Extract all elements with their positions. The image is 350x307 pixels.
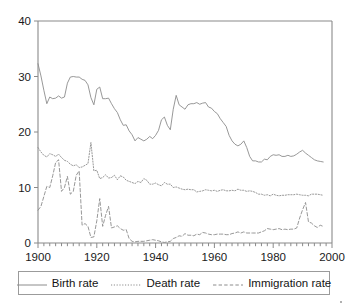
chart-screenshot: 010203040 190019201940196019802000 Birth…	[0, 0, 350, 307]
chart-tick-marks	[34, 21, 332, 248]
chart-axes	[38, 21, 332, 243]
legend-line-swatch-dotted	[111, 283, 141, 284]
x-axis-tick-label: 1960	[202, 251, 228, 262]
legend-item-death-rate[interactable]: Death rate	[111, 277, 200, 289]
chart-series-lines	[38, 64, 323, 243]
legend-item-label: Birth rate	[52, 277, 99, 289]
y-axis-tick-label: 0	[25, 237, 31, 249]
y-axis-tick-label: 20	[18, 126, 31, 138]
y-axis-tick-label: 30	[18, 71, 31, 83]
y-axis-tick-labels: 010203040	[18, 15, 31, 249]
legend-item-immigration-rate[interactable]: Immigration rate	[213, 277, 331, 289]
x-axis-tick-label: 1940	[143, 251, 169, 262]
legend-line-swatch-dashed	[213, 283, 243, 284]
series-line-birth-rate	[38, 64, 323, 162]
chart-plot-area: 010203040 190019201940196019802000	[0, 0, 350, 262]
series-line-death-rate	[38, 143, 323, 196]
x-axis-tick-label: 2000	[319, 251, 345, 262]
legend-line-swatch-solid	[17, 283, 47, 284]
chart-legend: Birth rateDeath rateImmigration rate	[18, 271, 330, 295]
x-axis-tick-label: 1980	[260, 251, 286, 262]
y-axis-tick-label: 10	[18, 182, 31, 194]
x-axis-tick-labels: 190019201940196019802000	[25, 251, 345, 262]
line-chart-svg: 010203040 190019201940196019802000	[0, 0, 350, 262]
x-axis-tick-label: 1920	[84, 251, 110, 262]
series-line-immigration-rate	[38, 160, 323, 243]
legend-item-birth-rate[interactable]: Birth rate	[17, 277, 99, 289]
legend-item-label: Death rate	[146, 277, 200, 289]
corner-speck	[340, 301, 342, 303]
y-axis-tick-label: 40	[18, 15, 31, 27]
legend-item-label: Immigration rate	[248, 277, 331, 289]
x-axis-tick-label: 1900	[25, 251, 51, 262]
